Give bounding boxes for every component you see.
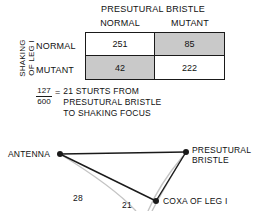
cell-mutant-normal: 42 (86, 56, 155, 79)
cell-mutant-mutant: 222 (155, 56, 224, 79)
node-label-presutural-line1: PRESUTURAL (192, 145, 251, 155)
fraction-numerator: 127 (36, 86, 51, 95)
cell-normal-normal: 251 (86, 33, 155, 56)
node-presutural-bristle (183, 149, 189, 155)
figure-canvas: PRESUTURAL BRISTLE NORMAL MUTANT SHAKING… (0, 0, 262, 211)
column-group-title: PRESUTURAL BRISTLE (78, 4, 228, 14)
edge-antenna-presutural (60, 152, 186, 154)
edge-presutural-coxa (156, 152, 186, 201)
equation-text-line3: TO SHAKING FOCUS (63, 108, 161, 119)
fraction-denominator: 600 (36, 97, 51, 106)
node-antenna (57, 151, 63, 157)
row-group-title: SHAKING OF LEG I (5, 26, 49, 90)
column-header-normal: NORMAL (85, 18, 155, 28)
row-header-mutant: MUTANT (36, 65, 84, 75)
row-group-title-line1: SHAKING (18, 39, 28, 76)
distance-label-21: 21 (122, 200, 132, 210)
node-label-antenna: ANTENNA (8, 149, 50, 159)
column-header-mutant: MUTANT (155, 18, 225, 28)
row-header-normal: NORMAL (36, 41, 84, 51)
node-label-presutural-bristle: PRESUTURAL BRISTLE (192, 145, 251, 165)
equation-text-line2: PRESUTURAL BRISTLE (63, 97, 161, 108)
fraction: 127 600 (36, 86, 52, 106)
counts-matrix: 251 85 42 222 (85, 32, 225, 80)
node-label-presutural-line2: BRISTLE (192, 155, 251, 165)
equals-sign: = (55, 87, 60, 97)
node-coxa-of-leg-i (153, 198, 159, 204)
equation-text: 21 STURTS FROM PRESUTURAL BRISTLE TO SHA… (63, 86, 161, 119)
node-label-coxa-of-leg-i: COXA OF LEG I (163, 196, 227, 206)
distance-label-28: 28 (73, 193, 83, 203)
distance-equation: 127 600 = 21 STURTS FROM PRESUTURAL BRIS… (36, 86, 162, 119)
equation-text-line1: 21 STURTS FROM (63, 86, 161, 97)
cell-normal-mutant: 85 (155, 33, 224, 56)
